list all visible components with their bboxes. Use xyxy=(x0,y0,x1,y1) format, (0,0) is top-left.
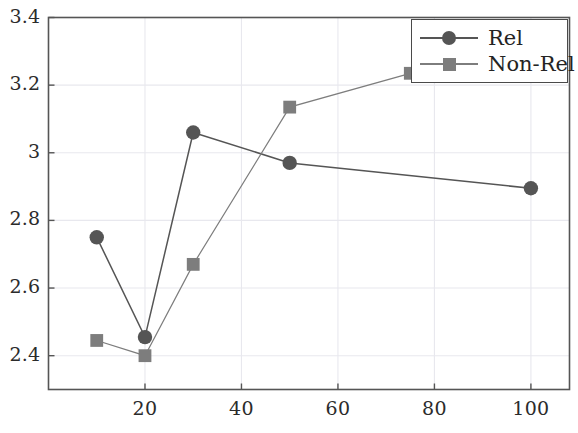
data-point xyxy=(186,125,200,139)
x-tick-label: 80 xyxy=(394,397,474,419)
x-tick-label: 100 xyxy=(491,397,571,419)
y-tick-label: 2.6 xyxy=(9,275,40,297)
y-tick-label: 2.4 xyxy=(9,343,40,365)
data-point xyxy=(138,330,152,344)
data-point xyxy=(283,156,297,170)
y-tick-label: 3.2 xyxy=(9,72,40,94)
legend-label-non-rel: Non-Rel xyxy=(480,52,575,76)
series-rel xyxy=(90,125,539,344)
legend-marker-non-rel xyxy=(443,58,456,71)
x-tick-label: 40 xyxy=(201,397,281,419)
circle-marker-icon xyxy=(418,27,480,49)
x-tick-label: 60 xyxy=(298,397,378,419)
data-series-group xyxy=(90,67,539,362)
series-non-rel xyxy=(90,67,416,362)
y-tick-label: 3.4 xyxy=(9,5,40,27)
data-point xyxy=(90,230,104,244)
legend-label-rel: Rel xyxy=(480,26,523,50)
legend-entry-rel: Rel xyxy=(418,25,557,51)
data-point xyxy=(139,349,152,362)
line-chart: 2.42.62.833.23.4 20406080100 Rel Non-Rel xyxy=(0,0,578,433)
y-tick-label: 3 xyxy=(28,140,40,162)
data-point xyxy=(524,181,538,195)
legend-marker-rel xyxy=(442,31,456,45)
chart-legend: Rel Non-Rel xyxy=(411,19,568,83)
square-marker-icon xyxy=(418,53,480,75)
y-tick-label: 2.8 xyxy=(9,207,40,229)
data-point xyxy=(90,334,103,347)
data-point xyxy=(283,101,296,114)
x-tick-label: 20 xyxy=(105,397,185,419)
legend-entry-non-rel: Non-Rel xyxy=(418,51,557,77)
data-point xyxy=(187,258,200,271)
